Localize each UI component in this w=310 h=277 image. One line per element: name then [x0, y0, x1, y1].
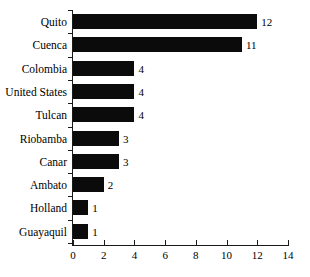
- bar[interactable]: [73, 154, 119, 169]
- x-axis-tick-label: 6: [153, 249, 177, 261]
- x-axis-line: [72, 245, 289, 246]
- bar-row: Tulcan4: [0, 105, 310, 128]
- bar-value-label: 3: [123, 132, 129, 146]
- category-label: Ambato: [0, 178, 67, 192]
- bar-value-label: 1: [92, 225, 98, 239]
- bar-value-label: 2: [108, 178, 114, 192]
- bar-value-label: 3: [123, 155, 129, 169]
- bar-value-label: 11: [246, 38, 257, 52]
- category-label: Riobamba: [0, 132, 67, 146]
- x-axis-tick-label: 0: [61, 249, 85, 261]
- bar[interactable]: [73, 61, 134, 76]
- x-axis-tick-label: 12: [245, 249, 269, 261]
- bar-row: Canar3: [0, 152, 310, 175]
- bar[interactable]: [73, 177, 104, 192]
- bar-row: Ambato2: [0, 175, 310, 198]
- bar[interactable]: [73, 84, 134, 99]
- category-label: Canar: [0, 155, 67, 169]
- bar-row: Guayaquil1: [0, 222, 310, 245]
- category-label: United States: [0, 85, 67, 99]
- bar-row: Quito12: [0, 12, 310, 35]
- x-axis-tick-label: 4: [122, 249, 146, 261]
- bar[interactable]: [73, 37, 242, 52]
- bar[interactable]: [73, 131, 119, 146]
- bar-row: Holland1: [0, 198, 310, 221]
- bar[interactable]: [73, 200, 88, 215]
- category-label: Guayaquil: [0, 225, 67, 239]
- category-label: Cuenca: [0, 38, 67, 52]
- category-label: Colombia: [0, 62, 67, 76]
- bar-value-label: 4: [138, 108, 144, 122]
- bar-value-label: 12: [261, 15, 272, 29]
- bar-chart: 02468101214 Quito12Cuenca11Colombia4Unit…: [0, 0, 310, 277]
- bar-row: United States4: [0, 82, 310, 105]
- x-axis-tick-label: 14: [276, 249, 300, 261]
- category-label: Holland: [0, 201, 67, 215]
- x-axis-tick-label: 2: [92, 249, 116, 261]
- bar[interactable]: [73, 107, 134, 122]
- bar-row: Colombia4: [0, 59, 310, 82]
- bar-value-label: 4: [138, 85, 144, 99]
- y-axis-tick: [68, 10, 72, 11]
- bar[interactable]: [73, 224, 88, 239]
- x-axis-tick-label: 10: [215, 249, 239, 261]
- bar-value-label: 4: [138, 62, 144, 76]
- bar-row: Riobamba3: [0, 129, 310, 152]
- category-label: Quito: [0, 15, 67, 29]
- bar-value-label: 1: [92, 201, 98, 215]
- x-axis-tick-label: 8: [184, 249, 208, 261]
- bar[interactable]: [73, 14, 257, 29]
- category-label: Tulcan: [0, 108, 67, 122]
- bar-row: Cuenca11: [0, 35, 310, 58]
